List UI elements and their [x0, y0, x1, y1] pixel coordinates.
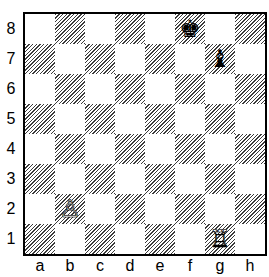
square-h6	[235, 74, 265, 104]
square-c1	[85, 224, 115, 254]
square-h8	[235, 14, 265, 44]
square-c5	[85, 104, 115, 134]
square-d1	[115, 224, 145, 254]
square-a2	[25, 194, 55, 224]
square-e7	[145, 44, 175, 74]
rank-label-3: 3	[4, 164, 18, 194]
file-label-h: h	[235, 255, 265, 277]
file-label-g: g	[205, 255, 235, 277]
square-a8	[25, 14, 55, 44]
square-e3	[145, 164, 175, 194]
square-d2	[115, 194, 145, 224]
square-b4	[55, 134, 85, 164]
black-bishop-icon: ♝	[209, 44, 231, 74]
rank-label-7: 7	[4, 44, 18, 74]
square-d3	[115, 164, 145, 194]
white-pawn-icon: ♙	[59, 194, 81, 224]
square-h2	[235, 194, 265, 224]
square-b6	[55, 74, 85, 104]
white-rook-icon: ♖	[209, 224, 231, 254]
square-a3	[25, 164, 55, 194]
square-g3	[205, 164, 235, 194]
square-c6	[85, 74, 115, 104]
square-a5	[25, 104, 55, 134]
rank-label-6: 6	[4, 74, 18, 104]
rank-label-1: 1	[4, 224, 18, 254]
file-label-b: b	[55, 255, 85, 277]
square-g7: ♝	[205, 44, 235, 74]
square-d6	[115, 74, 145, 104]
square-a1	[25, 224, 55, 254]
square-c2	[85, 194, 115, 224]
file-label-e: e	[145, 255, 175, 277]
square-h1	[235, 224, 265, 254]
square-a6	[25, 74, 55, 104]
square-h7	[235, 44, 265, 74]
rank-label-2: 2	[4, 194, 18, 224]
square-e6	[145, 74, 175, 104]
black-king-icon: ♚	[179, 14, 201, 44]
square-b8	[55, 14, 85, 44]
square-e1	[145, 224, 175, 254]
square-g4	[205, 134, 235, 164]
square-b1	[55, 224, 85, 254]
square-f5	[175, 104, 205, 134]
square-a4	[25, 134, 55, 164]
square-d8	[115, 14, 145, 44]
square-f8: ♚	[175, 14, 205, 44]
square-h4	[235, 134, 265, 164]
square-b3	[55, 164, 85, 194]
square-g1: ♖	[205, 224, 235, 254]
file-label-f: f	[175, 255, 205, 277]
square-e2	[145, 194, 175, 224]
square-g6	[205, 74, 235, 104]
square-h3	[235, 164, 265, 194]
square-f6	[175, 74, 205, 104]
square-e4	[145, 134, 175, 164]
square-g2	[205, 194, 235, 224]
square-d5	[115, 104, 145, 134]
square-e8	[145, 14, 175, 44]
square-b2: ♙	[55, 194, 85, 224]
file-label-d: d	[115, 255, 145, 277]
rank-label-8: 8	[4, 14, 18, 44]
square-g8	[205, 14, 235, 44]
square-g5	[205, 104, 235, 134]
square-f2	[175, 194, 205, 224]
square-c8	[85, 14, 115, 44]
square-c7	[85, 44, 115, 74]
square-e5	[145, 104, 175, 134]
square-h5	[235, 104, 265, 134]
file-label-c: c	[85, 255, 115, 277]
rank-label-5: 5	[4, 104, 18, 134]
square-f7	[175, 44, 205, 74]
square-b7	[55, 44, 85, 74]
square-a7	[25, 44, 55, 74]
square-f4	[175, 134, 205, 164]
square-d4	[115, 134, 145, 164]
square-f3	[175, 164, 205, 194]
square-b5	[55, 104, 85, 134]
square-c4	[85, 134, 115, 164]
rank-label-4: 4	[4, 134, 18, 164]
file-label-a: a	[25, 255, 55, 277]
square-f1	[175, 224, 205, 254]
square-d7	[115, 44, 145, 74]
chess-board: ♚♝♙♖	[23, 12, 267, 256]
square-c3	[85, 164, 115, 194]
